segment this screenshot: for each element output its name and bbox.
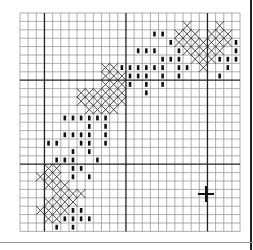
straight-stitch-icon xyxy=(235,40,238,45)
straight-stitch-icon xyxy=(153,48,156,53)
straight-stitch-icon xyxy=(80,166,83,171)
straight-stitch-icon xyxy=(145,90,148,95)
straight-stitch-icon xyxy=(161,32,164,37)
straight-stitch-icon xyxy=(137,48,140,53)
frame-bottom-edge xyxy=(0,242,253,243)
straight-stitch-icon xyxy=(161,74,164,79)
straight-stitch-icon xyxy=(88,216,91,221)
straight-stitch-icon xyxy=(145,65,148,70)
straight-stitch-icon xyxy=(72,216,75,221)
straight-stitch-icon xyxy=(72,166,75,171)
straight-stitch-icon xyxy=(137,74,140,79)
straight-stitch-icon xyxy=(55,225,58,230)
straight-stitch-icon xyxy=(129,65,132,70)
straight-stitch-icon xyxy=(235,48,238,53)
chart-grid xyxy=(20,13,240,232)
frame-right-edge xyxy=(250,0,252,250)
straight-stitch-icon xyxy=(218,74,221,79)
straight-stitch-icon xyxy=(169,57,172,62)
straight-stitch-icon xyxy=(55,158,58,163)
straight-stitch-icon xyxy=(88,174,91,179)
straight-stitch-icon xyxy=(88,141,91,146)
straight-stitch-icon xyxy=(121,65,124,70)
straight-stitch-icon xyxy=(104,132,107,137)
straight-stitch-icon xyxy=(64,216,67,221)
straight-stitch-icon xyxy=(80,132,83,137)
straight-stitch-icon xyxy=(55,141,58,146)
straight-stitch-icon xyxy=(186,65,189,70)
straight-stitch-icon xyxy=(169,40,172,45)
straight-stitch-icon xyxy=(72,225,75,230)
straight-stitch-icon xyxy=(129,74,132,79)
straight-stitch-icon xyxy=(64,116,67,121)
straight-stitch-icon xyxy=(72,208,75,213)
straight-stitch-icon xyxy=(80,116,83,121)
straight-stitch-icon xyxy=(161,65,164,70)
straight-stitch-icon xyxy=(96,116,99,121)
straight-stitch-icon xyxy=(161,57,164,62)
straight-stitch-icon xyxy=(47,141,50,146)
straight-stitch-icon xyxy=(80,208,83,213)
straight-stitch-icon xyxy=(153,65,156,70)
straight-stitch-icon xyxy=(88,149,91,154)
straight-stitch-icon xyxy=(153,32,156,37)
straight-stitch-icon xyxy=(161,82,164,87)
straight-stitch-icon xyxy=(88,116,91,121)
straight-stitch-icon xyxy=(96,158,99,163)
straight-stitch-icon xyxy=(72,116,75,121)
cross-stitch-chart xyxy=(20,13,240,231)
straight-stitch-icon xyxy=(145,48,148,53)
straight-stitch-icon xyxy=(88,124,91,129)
straight-stitch-icon xyxy=(72,132,75,137)
straight-stitch-icon xyxy=(88,132,91,137)
straight-stitch-icon xyxy=(178,57,181,62)
straight-stitch-icon xyxy=(218,57,221,62)
straight-stitch-icon xyxy=(72,158,75,163)
straight-stitch-icon xyxy=(227,57,230,62)
straight-stitch-icon xyxy=(178,48,181,53)
straight-stitch-icon xyxy=(227,65,230,70)
straight-stitch-icon xyxy=(178,74,181,79)
straight-stitch-icon xyxy=(104,124,107,129)
straight-stitch-icon xyxy=(64,158,67,163)
straight-stitch-icon xyxy=(235,57,238,62)
straight-stitch-icon xyxy=(80,216,83,221)
straight-stitch-icon xyxy=(137,65,140,70)
straight-stitch-icon xyxy=(104,141,107,146)
straight-stitch-icon xyxy=(178,65,181,70)
straight-stitch-icon xyxy=(64,132,67,137)
straight-stitch-icon xyxy=(72,149,75,154)
straight-stitch-icon xyxy=(80,141,83,146)
straight-stitch-icon xyxy=(145,82,148,87)
straight-stitch-icon xyxy=(72,174,75,179)
straight-stitch-icon xyxy=(145,74,148,79)
straight-stitch-icon xyxy=(129,82,132,87)
straight-stitch-icon xyxy=(104,116,107,121)
